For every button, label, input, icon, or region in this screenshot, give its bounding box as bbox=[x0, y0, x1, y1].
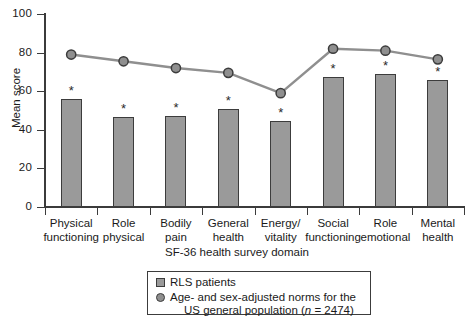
x-axis-tick bbox=[359, 208, 360, 215]
x-axis-tick bbox=[45, 208, 46, 215]
y-axis-tick bbox=[37, 14, 44, 15]
x-axis-tick bbox=[412, 208, 413, 215]
x-axis-category-label-line: pain bbox=[146, 230, 206, 244]
legend-label-rls-patients: RLS patients bbox=[170, 276, 236, 290]
significance-star: * bbox=[378, 63, 392, 69]
y-axis-tick bbox=[37, 91, 44, 92]
line-marker bbox=[119, 57, 128, 66]
y-axis-tick-label: 0 bbox=[0, 200, 32, 212]
x-axis-tick bbox=[202, 208, 203, 215]
y-axis-tick-label: 100 bbox=[0, 7, 32, 19]
y-axis-tick-label: 60 bbox=[0, 84, 32, 96]
x-axis-tick bbox=[97, 208, 98, 215]
line-marker bbox=[67, 50, 76, 59]
significance-star: * bbox=[117, 106, 131, 112]
y-axis-tick-label: 80 bbox=[0, 46, 32, 58]
x-axis-category-label: Bodilypain bbox=[146, 216, 206, 244]
line-marker bbox=[171, 63, 180, 72]
line-marker bbox=[328, 44, 337, 53]
legend-item-us-norms: Age- and sex-adjusted norms for the US g… bbox=[156, 291, 370, 318]
x-axis-category-label-line: emotional bbox=[355, 230, 415, 244]
x-axis-category-label-line: Energy/ bbox=[251, 216, 311, 230]
line-marker bbox=[433, 55, 442, 64]
x-axis-category-label-line: Role bbox=[93, 216, 153, 230]
x-axis-tick bbox=[255, 208, 256, 215]
y-axis-line bbox=[44, 13, 46, 208]
x-axis-category-label-line: Social bbox=[303, 216, 363, 230]
x-axis-category-label-line: Mental bbox=[408, 216, 468, 230]
x-axis-category-label: Physicalfunctioning bbox=[41, 216, 101, 244]
bar bbox=[375, 74, 396, 207]
legend-item-rls-patients: RLS patients bbox=[156, 276, 370, 290]
x-axis-category-label-line: General bbox=[198, 216, 258, 230]
bar bbox=[61, 99, 82, 207]
x-axis-category-label: Socialfunctioning bbox=[303, 216, 363, 244]
bar bbox=[427, 80, 448, 207]
x-axis-category-label-line: Role bbox=[355, 216, 415, 230]
legend-line2-pre: US general population ( bbox=[184, 304, 305, 316]
x-axis-category-label-line: Bodily bbox=[146, 216, 206, 230]
y-axis-tick bbox=[37, 207, 44, 208]
y-axis-tick bbox=[37, 53, 44, 54]
x-axis-category-label: Generalhealth bbox=[198, 216, 258, 244]
y-axis-title: Mean score bbox=[10, 43, 22, 153]
chart-legend: RLS patients Age- and sex-adjusted norms… bbox=[147, 271, 371, 315]
chart-figure: Mean score 020406080100 ******** Physica… bbox=[0, 0, 474, 318]
line-marker bbox=[276, 89, 285, 98]
significance-star: * bbox=[431, 69, 445, 75]
x-axis-category-label: Rolephysical bbox=[93, 216, 153, 244]
line-marker bbox=[224, 68, 233, 77]
y-axis-tick bbox=[37, 130, 44, 131]
x-axis-category-label-line: health bbox=[198, 230, 258, 244]
bar bbox=[323, 77, 344, 207]
legend-label-us-norms-line1: Age- and sex-adjusted norms for the bbox=[170, 291, 356, 303]
x-axis-tick bbox=[464, 208, 465, 215]
bar bbox=[270, 121, 291, 207]
bar bbox=[218, 109, 239, 207]
x-axis-category-label-line: physical bbox=[93, 230, 153, 244]
bar bbox=[165, 116, 186, 207]
x-axis-category-label-line: health bbox=[408, 230, 468, 244]
line-marker bbox=[381, 46, 390, 55]
x-axis-category-label-line: Physical bbox=[41, 216, 101, 230]
x-axis-category-label: Roleemotional bbox=[355, 216, 415, 244]
x-axis-category-label: Energy/vitality bbox=[251, 216, 311, 244]
bar bbox=[113, 117, 134, 207]
x-axis-category-label-line: functioning bbox=[303, 230, 363, 244]
x-axis-tick bbox=[150, 208, 151, 215]
significance-star: * bbox=[64, 88, 78, 94]
bar-swatch-icon bbox=[156, 278, 165, 287]
significance-star: * bbox=[326, 66, 340, 72]
y-axis-tick-label: 40 bbox=[0, 123, 32, 135]
y-axis-tick bbox=[37, 168, 44, 169]
circle-marker-swatch-icon bbox=[156, 293, 165, 302]
significance-star: * bbox=[221, 98, 235, 104]
legend-line2-post: = 2474) bbox=[311, 304, 354, 316]
x-axis-category-label-line: functioning bbox=[41, 230, 101, 244]
x-axis-category-label: Mentalhealth bbox=[408, 216, 468, 244]
legend-label-us-norms-line2: US general population (n = 2474) bbox=[184, 304, 354, 316]
x-axis-title: SF-36 health survey domain bbox=[0, 246, 474, 258]
significance-star: * bbox=[169, 105, 183, 111]
x-axis-tick bbox=[307, 208, 308, 215]
y-axis-tick-label: 20 bbox=[0, 161, 32, 173]
legend-label-us-norms: Age- and sex-adjusted norms for the US g… bbox=[170, 291, 356, 318]
x-axis-category-label-line: vitality bbox=[251, 230, 311, 244]
significance-star: * bbox=[274, 110, 288, 116]
